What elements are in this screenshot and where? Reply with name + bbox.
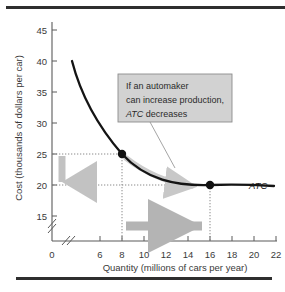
y-tick-label-35: 35 <box>36 87 47 98</box>
callout-line-2: can increase production, <box>126 95 224 105</box>
x-tick-20: 20 <box>249 236 260 260</box>
y-tick-30: 30 <box>36 118 57 129</box>
x-tick-14: 14 <box>183 236 194 260</box>
x-axis-ticks: 0 6 8 10 12 14 16 <box>49 236 281 260</box>
x-tick-label-22: 22 <box>271 249 282 260</box>
arrow-along-curve <box>126 158 192 186</box>
y-tick-label-20: 20 <box>36 180 47 191</box>
y-tick-label-25: 25 <box>36 149 47 160</box>
x-tick-label-18: 18 <box>227 249 238 260</box>
y-tick-40: 40 <box>36 56 57 67</box>
y-tick-45: 45 <box>36 25 57 36</box>
y-tick-label-30: 30 <box>36 118 47 129</box>
callout-line-3: ATC decreases <box>125 109 188 119</box>
atc-cost-curve-chart: 45 40 35 30 25 20 <box>0 0 285 292</box>
callout-leader-line <box>150 122 175 168</box>
callout-line-1: If an automaker <box>126 81 189 91</box>
x-axis-title: Quantity (millions of cars per year) <box>103 262 248 273</box>
y-tick-label-45: 45 <box>36 25 47 36</box>
x-tick-10: 10 <box>139 236 150 260</box>
x-tick-label-6: 6 <box>97 249 102 260</box>
x-tick-6: 6 <box>97 236 102 260</box>
x-tick-8: 8 <box>119 236 124 260</box>
x-tick-label-10: 10 <box>139 249 150 260</box>
x-tick-label-16: 16 <box>205 249 216 260</box>
y-tick-label-40: 40 <box>36 56 47 67</box>
atc-curve-label: ATC <box>248 180 267 191</box>
x-tick-12: 12 <box>161 236 172 260</box>
y-tick-35: 35 <box>36 87 57 98</box>
y-tick-label-15: 15 <box>36 211 47 222</box>
callout-box: If an automaker can increase production,… <box>118 74 232 122</box>
y-axis-title: Cost (thousands of dollars per car) <box>13 55 24 201</box>
x-tick-label-12: 12 <box>161 249 172 260</box>
x-tick-label-14: 14 <box>183 249 194 260</box>
x-tick-22: 22 <box>271 236 282 260</box>
callout-atc-italic: ATC <box>125 109 144 119</box>
x-tick-label-8: 8 <box>119 249 124 260</box>
y-tick-15: 15 <box>36 211 57 222</box>
point-a-8-25 <box>118 150 126 158</box>
point-b-16-20 <box>206 181 214 189</box>
axes-group <box>48 22 277 245</box>
x-tick-label-20: 20 <box>249 249 260 260</box>
figure-container: 45 40 35 30 25 20 <box>0 0 285 292</box>
x-tick-label-0: 0 <box>49 249 54 260</box>
x-tick-18: 18 <box>227 236 238 260</box>
y-axis-ticks: 45 40 35 30 25 20 <box>36 25 57 222</box>
